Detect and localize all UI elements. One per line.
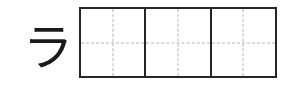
model-character: ラ xyxy=(20,16,76,80)
handwriting-practice-row: ラ xyxy=(0,0,287,104)
practice-cell[interactable] xyxy=(146,9,211,76)
practice-grid xyxy=(79,7,277,78)
practice-cell[interactable] xyxy=(81,9,146,76)
guide-vertical-icon xyxy=(177,9,178,76)
practice-cell[interactable] xyxy=(212,9,275,76)
guide-vertical-icon xyxy=(243,9,244,76)
guide-vertical-icon xyxy=(112,9,113,76)
